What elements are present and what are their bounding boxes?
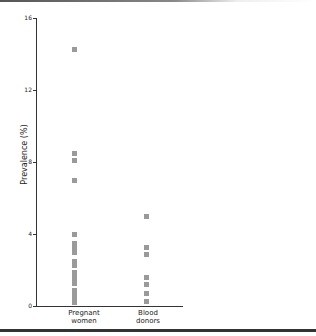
y-tick-label: 12 <box>14 86 32 93</box>
y-axis-label: Prevalence (%) <box>20 115 29 195</box>
y-tick <box>33 18 37 19</box>
y-tick-label: 4 <box>14 230 32 237</box>
data-point <box>72 245 77 250</box>
y-tick <box>33 90 37 91</box>
category-label-line: donors <box>118 317 178 325</box>
category-label-line: Pregnant <box>54 309 114 317</box>
data-point <box>144 214 149 219</box>
data-point <box>144 299 149 304</box>
data-point <box>144 245 149 250</box>
scatter-plot: Prevalence (%) 0481216 Pregnant women Bl… <box>0 0 316 336</box>
data-point <box>72 47 77 52</box>
data-point <box>72 178 77 183</box>
y-tick <box>33 234 37 235</box>
data-point <box>72 151 77 156</box>
x-category-pregnant-women: Pregnant women <box>54 309 114 325</box>
data-point <box>144 275 149 280</box>
data-point <box>72 263 77 268</box>
y-tick <box>33 306 37 307</box>
data-point <box>72 232 77 237</box>
y-tick <box>33 162 37 163</box>
y-tick-label: 0 <box>14 302 32 309</box>
data-point <box>144 291 149 296</box>
category-label-line: Blood <box>118 309 178 317</box>
y-tick-label: 8 <box>14 158 32 165</box>
y-tick-label: 16 <box>14 14 32 21</box>
data-point <box>72 281 77 286</box>
category-label-line: women <box>54 317 114 325</box>
data-point <box>72 288 77 293</box>
data-point <box>72 158 77 163</box>
bottom-rule <box>0 329 316 332</box>
data-point <box>144 282 149 287</box>
x-axis <box>36 306 183 307</box>
data-point <box>144 252 149 257</box>
x-category-blood-donors: Blood donors <box>118 309 178 325</box>
data-point <box>72 250 77 255</box>
data-point <box>72 300 77 305</box>
